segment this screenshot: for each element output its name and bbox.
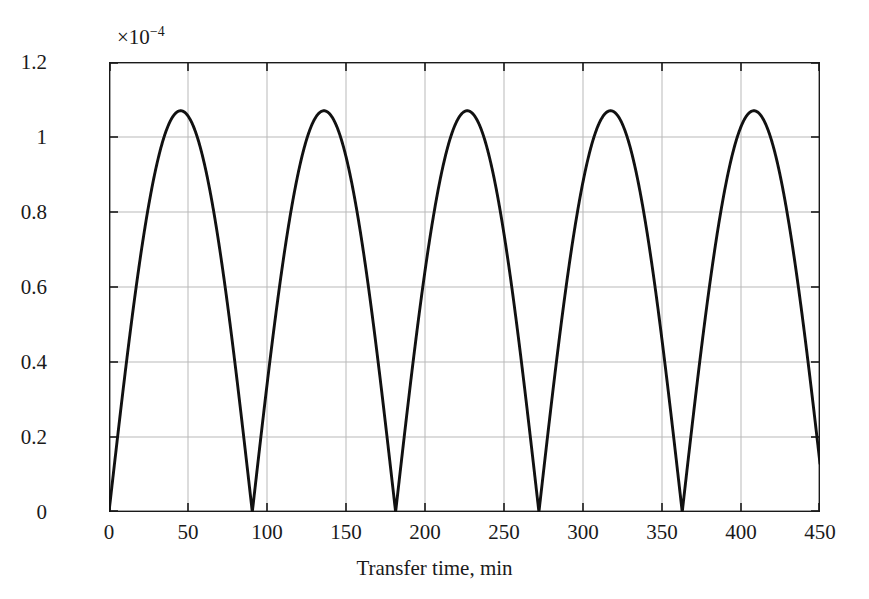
y-axis-multiplier: ×10−4 — [117, 24, 165, 50]
y-tick-label: 0.4 — [21, 350, 47, 375]
plot-canvas — [109, 62, 820, 512]
y-axis-multiplier-exponent: −4 — [150, 24, 165, 39]
x-axis-label: Transfer time, min — [0, 556, 869, 581]
grid-lines — [109, 62, 820, 512]
x-tick-label: 100 — [251, 520, 283, 545]
y-tick-label: 1.2 — [21, 50, 47, 75]
x-tick-label: 450 — [804, 520, 836, 545]
y-tick-label: 0.2 — [21, 425, 47, 450]
eccentricity-chart-figure: ×10−4 Eccentricity 00.20.40.60.811.2 050… — [0, 0, 869, 599]
x-tick-label: 300 — [567, 520, 599, 545]
x-tick-label: 200 — [409, 520, 441, 545]
y-axis-multiplier-base: ×10 — [117, 25, 150, 49]
eccentricity-curve — [109, 111, 820, 512]
y-tick-label: 0.8 — [21, 200, 47, 225]
y-tick-label: 0 — [37, 500, 48, 525]
x-tick-label: 150 — [330, 520, 362, 545]
x-tick-label: 250 — [488, 520, 520, 545]
y-tick-label: 0.6 — [21, 275, 47, 300]
x-tick-label: 50 — [178, 520, 199, 545]
x-tick-label: 400 — [725, 520, 757, 545]
y-tick-label: 1 — [37, 125, 48, 150]
plot-area — [109, 62, 820, 512]
x-tick-label: 350 — [646, 520, 678, 545]
x-tick-label: 0 — [104, 520, 115, 545]
